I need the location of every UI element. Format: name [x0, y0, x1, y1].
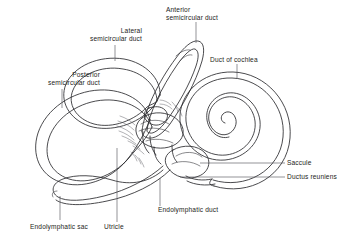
label-endolymphatic-duct: Endolymphatic duct: [158, 206, 218, 214]
label-cochlea-line1: Duct of cochlea: [210, 56, 258, 64]
label-ductus-reuniens: Ductus reuniens: [287, 173, 337, 181]
label-anterior-line2: semicircular duct: [166, 14, 218, 22]
label-lateral-line2: semicircular duct: [62, 35, 142, 43]
label-endolymphatic-sac: Endolymphatic sac: [30, 223, 88, 231]
anterior-semicircular-duct-shape: [142, 41, 204, 155]
label-lateral-line1: Lateral: [62, 27, 142, 35]
label-anterior-line1: Anterior: [166, 6, 218, 14]
posterior-semicircular-duct-shape: [36, 90, 152, 185]
label-endo-sac-line1: Endolymphatic sac: [30, 223, 88, 231]
label-posterior-line2: semicircular duct: [18, 79, 100, 87]
label-saccule-line1: Saccule: [287, 159, 312, 167]
label-anterior-semicircular-duct: Anterior semicircular duct: [166, 6, 218, 22]
label-posterior-semicircular-duct: Posterior semicircular duct: [18, 71, 100, 87]
label-utricle-line1: Utricle: [104, 223, 124, 231]
label-saccule: Saccule: [287, 159, 312, 167]
vestibule-shading: [117, 100, 182, 167]
endolymphatic-duct-and-sac-shape: [52, 166, 170, 205]
label-ductus-line1: Ductus reuniens: [287, 173, 337, 181]
duct-of-cochlea-shape: [180, 72, 290, 189]
lateral-semicircular-duct-shape: [64, 58, 168, 128]
label-lateral-semicircular-duct: Lateral semicircular duct: [62, 27, 142, 43]
label-posterior-line1: Posterior: [18, 71, 100, 79]
label-duct-of-cochlea: Duct of cochlea: [210, 56, 258, 64]
leader-lines: [60, 22, 285, 222]
label-endo-duct-line1: Endolymphatic duct: [158, 206, 218, 214]
saccule-shape: [165, 146, 209, 178]
label-utricle: Utricle: [104, 223, 124, 231]
